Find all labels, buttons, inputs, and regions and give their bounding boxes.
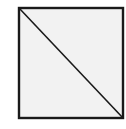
diagram-canvas bbox=[0, 0, 126, 129]
